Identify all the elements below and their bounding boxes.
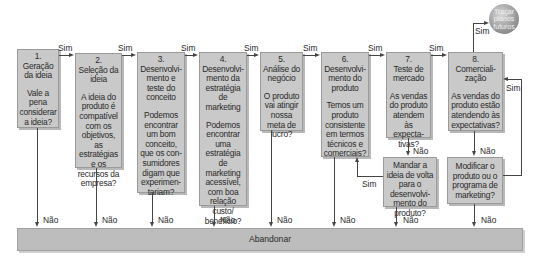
step-6-box: 6.Desenvolvi-mento do produto Temos um p…: [321, 52, 369, 157]
step-1-box: 1.Geração da ideia Vale a pena considera…: [17, 49, 59, 128]
step-4-title: 4.Desenvolvi-mento da estratégia de mark…: [201, 55, 245, 113]
step-8-box: 8.Comerciali-zação As vendas do produto …: [448, 52, 503, 131]
no-arrow-1: [37, 128, 38, 224]
step-5-title: 5.Análise do negócio: [262, 55, 301, 84]
yes-label-2-3: Sim: [118, 44, 132, 53]
no-label-modify: Não: [481, 216, 496, 225]
arrow-head-icon: [150, 222, 154, 227]
yes-label-4-5: Sim: [244, 44, 258, 53]
step-8-title: 8.Comerciali-zação: [450, 55, 501, 84]
arrow-head-icon: [131, 53, 136, 57]
yes-label-6-7: Sim: [368, 44, 382, 53]
step-5-question: O produto vai atingir nossa meta de lucr…: [262, 92, 301, 140]
arrow-head-icon: [484, 21, 489, 25]
no-label-4: Não: [220, 216, 235, 225]
arrow-head-icon: [69, 53, 74, 57]
yes-label-send-back: Sim: [362, 180, 376, 189]
arrow-head-icon: [94, 222, 98, 227]
step-6-title: 6.Desenvolvi-mento do produto: [323, 55, 367, 93]
future-plans-label: Traçar planos futuros: [491, 8, 517, 31]
step-7-title: 7.Teste de mercado: [388, 55, 429, 84]
arrow-head-icon: [380, 53, 385, 57]
modify-box: Modificar o produto ou o programa de mar…: [447, 157, 503, 204]
arrow-head-icon: [472, 222, 476, 227]
arrow-head-icon: [269, 222, 273, 227]
step-3-question: Podemos encontrar um bom conceito, que o…: [139, 111, 183, 197]
no-arrow-5: [271, 131, 272, 224]
send-back-box: Mandar a ideia de volta para o desenvolv…: [383, 157, 437, 207]
future-plans-circle: Traçar planos futuros: [489, 4, 519, 34]
arrow-head-icon: [254, 53, 259, 57]
arrow-head-icon: [35, 222, 39, 227]
abandon-label: Abandonar: [249, 234, 291, 244]
step-2-box: 2.Seleção da ideia A ideia do produto é …: [75, 53, 122, 168]
no-arrow-8: [474, 131, 475, 153]
arrow-head-icon: [406, 151, 410, 156]
yes-arrow-8-future: [473, 23, 474, 52]
send-back-question: Mandar a ideia de volta para o desenvolv…: [385, 161, 435, 219]
step-7-box: 7.Teste de mercado As vendas do produto …: [386, 52, 431, 138]
no-label-send-back: Não: [403, 216, 418, 225]
arrow-head-icon: [472, 151, 476, 156]
yes-arrow-send-back-v: [357, 162, 358, 177]
step-8-question: As vendas do produto estão atendendo às …: [450, 92, 501, 130]
step-2-title: 2.Seleção da ideia: [77, 56, 120, 85]
no-label-5: Não: [277, 216, 292, 225]
arrow-head-icon: [394, 222, 398, 227]
no-label-1: Não: [43, 216, 58, 225]
no-label-6: Não: [340, 216, 355, 225]
abandon-bar: Abandonar: [17, 228, 523, 251]
arrow-head-icon: [315, 53, 320, 57]
arrow-head-icon: [503, 77, 508, 81]
arrow-head-icon: [332, 222, 336, 227]
yes-label-3-4: Sim: [181, 44, 195, 53]
yes-label-5-6: Sim: [303, 44, 317, 53]
no-label-2: Não: [102, 216, 117, 225]
no-arrow-modify: [474, 204, 475, 224]
arrow-head-icon: [442, 53, 447, 57]
yes-arrow-modify-v: [521, 79, 522, 176]
step-4-box: 4.Desenvolvi-mento da estratégia de mark…: [199, 52, 247, 206]
step-1-title: 1.Geração da ideia: [19, 52, 57, 81]
step-2-question: A ideia do produto é compatível com os o…: [77, 93, 120, 189]
no-label-8: Não: [480, 147, 495, 156]
modify-question: Modificar o produto ou o programa de mar…: [449, 162, 501, 200]
yes-label-future: Sim: [475, 27, 489, 36]
arrow-head-icon: [212, 222, 216, 227]
arrow-head-icon: [355, 157, 359, 162]
step-1-question: Vale a pena considerar a ideia?: [19, 89, 57, 127]
step-4-question: Podemos encontrar uma estratégia de mark…: [201, 121, 245, 227]
step-5-box: 5.Análise do negócio O produto vai ating…: [260, 52, 303, 131]
yes-arrow-send-back-h: [357, 176, 383, 177]
no-label-3: Não: [158, 216, 173, 225]
step-6-question: Temos um produto consistente em termos t…: [323, 101, 367, 159]
yes-label-modify: Sim: [506, 84, 520, 93]
step-3-title: 3.Desenvolvi-mento e teste do conceito: [139, 55, 183, 103]
no-label-7: Não: [413, 147, 428, 156]
no-arrow-2: [96, 168, 97, 224]
arrow-head-icon: [193, 53, 198, 57]
yes-label-1-2: Sim: [58, 44, 72, 53]
yes-arrow-modify-h1: [503, 175, 522, 176]
step-3-box: 3.Desenvolvi-mento e teste do conceito P…: [137, 52, 185, 193]
yes-label-7-8: Sim: [429, 44, 443, 53]
no-arrow-6: [334, 157, 335, 224]
no-arrow-3: [152, 193, 153, 224]
yes-arrow-modify-h2: [508, 79, 522, 80]
